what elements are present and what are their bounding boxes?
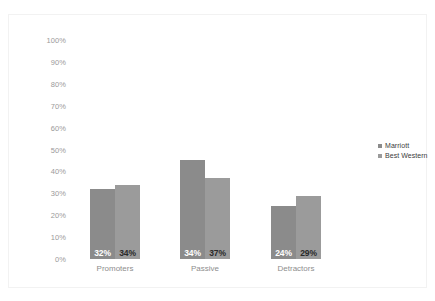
y-tick-label: 60%	[51, 123, 66, 132]
bar-marriott-detractors: 24%	[271, 206, 296, 259]
x-category-label-promoters: Promoters	[97, 264, 134, 273]
y-axis: 100% 90% 80% 70% 60% 50% 40% 30% 20% 10%…	[28, 40, 66, 259]
y-tick-label: 100%	[46, 36, 66, 45]
bar-marriott-promoters: 32%	[90, 189, 115, 259]
y-tick-label: 20%	[51, 211, 66, 220]
y-tick-label: 40%	[51, 167, 66, 176]
bar-value-label: 32%	[94, 249, 111, 260]
y-tick-label: 10%	[51, 233, 66, 242]
y-tick-label: 30%	[51, 189, 66, 198]
bar-best-western-detractors: 29%	[296, 196, 321, 260]
y-tick-label: 70%	[51, 101, 66, 110]
legend-item-label: Best Western	[385, 152, 428, 159]
bar-value-label: 24%	[275, 249, 292, 260]
bar-value-label: 29%	[300, 249, 317, 260]
legend-item-label: Marriott	[385, 142, 409, 149]
y-tick-label: 0%	[55, 255, 66, 264]
legend-swatch-icon	[378, 154, 382, 158]
bar-group-passive: 34% 37%	[169, 40, 241, 259]
bar-group-promoters: 32% 34%	[79, 40, 151, 259]
legend-item-best-western[interactable]: Best Western	[378, 152, 428, 159]
y-tick-label: 90%	[51, 57, 66, 66]
bar-best-western-passive: 37%	[205, 178, 230, 259]
nps-grouped-bar-chart: 100% 90% 80% 70% 60% 50% 40% 30% 20% 10%…	[0, 0, 435, 301]
y-tick-label: 50%	[51, 145, 66, 154]
bar-group-detractors: 24% 29%	[260, 40, 332, 259]
bar-best-western-promoters: 34%	[115, 185, 140, 259]
legend-swatch-icon	[378, 144, 382, 148]
bar-value-label: 34%	[184, 249, 201, 260]
x-category-label-detractors: Detractors	[278, 264, 315, 273]
legend-item-marriott[interactable]: Marriott	[378, 142, 428, 149]
bar-value-label: 34%	[119, 249, 136, 260]
plot-area: 32% 34% 34% 37% 24% 29%	[70, 40, 342, 259]
legend: Marriott Best Western	[378, 142, 428, 159]
bar-marriott-passive: 34%	[180, 160, 205, 259]
y-tick-label: 80%	[51, 79, 66, 88]
bar-value-label: 37%	[209, 249, 226, 260]
x-category-label-passive: Passive	[191, 264, 219, 273]
